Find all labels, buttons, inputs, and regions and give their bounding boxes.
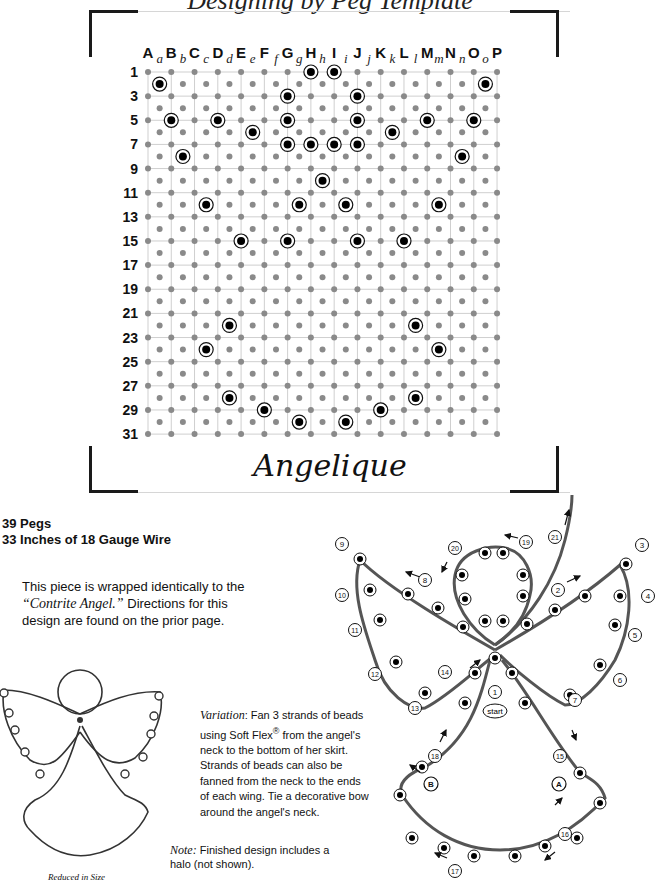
note-label: Note: [170,843,197,857]
svg-text:o: o [482,51,489,66]
svg-text:C: C [189,44,200,61]
svg-text:f: f [274,51,280,66]
svg-text:7: 7 [130,136,138,152]
svg-text:7: 7 [573,696,578,705]
svg-text:9: 9 [340,540,345,549]
svg-text:D: D [212,44,223,61]
svg-text:A: A [143,44,154,61]
svg-text:13: 13 [411,705,419,712]
svg-text:l: l [414,51,418,66]
svg-text:11: 11 [351,627,358,634]
svg-text:14: 14 [441,669,449,676]
peg-template-grid: ABCDEFGHIJKLMNOPabcdefghijklmno135791113… [0,0,661,470]
svg-text:16: 16 [561,831,569,838]
angel-preview-illustration [0,650,170,875]
svg-text:I: I [332,44,336,61]
svg-text:K: K [375,44,386,61]
svg-text:J: J [353,44,361,61]
svg-text:3: 3 [640,541,645,550]
svg-text:23: 23 [122,330,138,346]
svg-text:21: 21 [122,305,138,321]
svg-text:13: 13 [122,209,138,225]
svg-text:k: k [389,51,395,66]
svg-text:29: 29 [122,402,138,418]
svg-text:18: 18 [431,753,439,760]
svg-text:11: 11 [123,185,138,201]
svg-text:6: 6 [618,676,623,685]
note-paragraph: Note: Finished design includes a halo (n… [170,843,340,871]
svg-text:1: 1 [493,688,498,697]
svg-text:m: m [434,51,443,66]
svg-text:10: 10 [338,592,346,599]
peg-count: 39 Pegs [2,516,171,532]
svg-text:N: N [445,44,456,61]
svg-text:E: E [236,44,246,61]
svg-text:27: 27 [122,378,138,394]
svg-text:h: h [319,51,326,66]
svg-text:9: 9 [130,161,138,177]
svg-text:b: b [180,51,187,66]
svg-text:B: B [428,780,434,789]
svg-text:i: i [344,51,348,66]
svg-text:g: g [296,51,303,66]
svg-text:20: 20 [451,545,459,552]
svg-text:8: 8 [423,576,428,585]
svg-text:17: 17 [122,257,138,273]
svg-text:15: 15 [122,233,138,249]
svg-text:e: e [250,51,256,66]
start-label: start [487,707,503,716]
svg-text:L: L [399,44,408,61]
svg-text:B: B [166,44,177,61]
wrapping-diagram: 123456789101112131415161718192021AB star… [330,480,661,885]
svg-text:19: 19 [522,539,530,546]
svg-text:5: 5 [633,631,638,640]
svg-text:5: 5 [130,112,138,128]
svg-text:F: F [260,44,269,61]
intro-text-before: This piece is wrapped identically to the [22,579,245,594]
preview-caption: Reduced in Size [48,872,105,882]
svg-text:A: A [556,780,562,789]
svg-text:n: n [459,51,466,66]
svg-text:4: 4 [646,592,651,601]
svg-text:P: P [492,44,502,61]
svg-text:d: d [226,51,233,66]
materials-specs: 39 Pegs 33 Inches of 18 Gauge Wire [2,516,171,548]
svg-text:2: 2 [556,586,561,595]
wire-length: 33 Inches of 18 Gauge Wire [2,532,171,548]
svg-text:15: 15 [556,753,564,760]
svg-text:a: a [156,51,163,66]
svg-text:25: 25 [122,354,138,370]
variation-label: Variation [200,708,245,722]
svg-text:1: 1 [130,64,138,80]
design-name: Angelique [200,448,460,483]
svg-text:O: O [468,44,480,61]
svg-text:H: H [305,44,316,61]
intro-reference: “Contrite Angel.” [22,596,124,611]
svg-text:31: 31 [122,426,138,442]
svg-text:12: 12 [371,671,379,678]
intro-paragraph: This piece is wrapped identically to the… [22,578,262,629]
svg-text:c: c [203,51,209,66]
svg-text:3: 3 [130,88,138,104]
svg-text:G: G [282,44,294,61]
svg-text:19: 19 [122,281,138,297]
svg-text:j: j [365,51,371,66]
svg-text:M: M [421,44,434,61]
svg-text:17: 17 [451,868,459,875]
svg-text:21: 21 [551,534,559,541]
